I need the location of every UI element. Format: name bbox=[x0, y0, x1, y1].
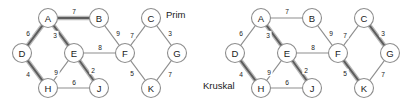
edge-weight-E-F: 8 bbox=[311, 44, 315, 51]
edge-weight-A-B: 7 bbox=[285, 8, 289, 15]
edge-weight-B-F: 9 bbox=[116, 30, 120, 37]
edge-weight-E-J: 2 bbox=[304, 67, 308, 74]
node-label-A: A bbox=[45, 13, 52, 24]
edge-weight-C-G: 3 bbox=[381, 30, 385, 37]
edge-weight-A-E: 3 bbox=[266, 32, 270, 39]
edge-weight-A-E: 3 bbox=[53, 32, 57, 39]
node-label-A: A bbox=[258, 13, 265, 24]
edge-weight-E-H: 9 bbox=[267, 69, 271, 76]
edge-weight-G-K: 7 bbox=[168, 71, 172, 78]
node-label-J: J bbox=[310, 83, 315, 94]
edge-weight-D-H: 4 bbox=[26, 71, 30, 78]
node-label-H: H bbox=[258, 83, 265, 94]
node-label-E: E bbox=[284, 48, 290, 59]
edges-group bbox=[241, 18, 385, 88]
node-label-K: K bbox=[148, 83, 155, 94]
algorithm-label-kruskal: Kruskal bbox=[203, 80, 235, 91]
node-label-J: J bbox=[97, 83, 102, 94]
edge-weight-E-F: 8 bbox=[98, 44, 102, 51]
edge-weight-H-J: 6 bbox=[285, 79, 289, 86]
edge-weight-C-F: 7 bbox=[130, 32, 134, 39]
graph-panel-kruskal: 7639734892576ABCDEFGHJKKruskal bbox=[203, 7, 400, 98]
edge-weight-A-B: 7 bbox=[72, 8, 76, 15]
node-label-E: E bbox=[71, 48, 77, 59]
graph-canvas: 7639734892576ABCDEFGHJKPrim7639734892576… bbox=[0, 0, 405, 101]
algorithm-label-prim: Prim bbox=[166, 9, 186, 20]
edge-weight-C-G: 3 bbox=[168, 30, 172, 37]
node-label-B: B bbox=[309, 13, 315, 24]
edge-weight-F-K: 5 bbox=[130, 70, 134, 77]
node-label-D: D bbox=[232, 48, 239, 59]
node-label-G: G bbox=[386, 48, 393, 59]
graph-panel-prim: 7639734892576ABCDEFGHJKPrim bbox=[13, 7, 187, 98]
panels-layer: 7639734892576ABCDEFGHJKPrim7639734892576… bbox=[13, 7, 400, 98]
node-label-G: G bbox=[173, 48, 180, 59]
node-label-D: D bbox=[19, 48, 26, 59]
edge-weight-E-H: 9 bbox=[54, 69, 58, 76]
edge-weight-E-J: 2 bbox=[91, 67, 95, 74]
node-label-K: K bbox=[361, 83, 368, 94]
node-label-C: C bbox=[361, 13, 368, 24]
edge-weight-F-K: 5 bbox=[343, 70, 347, 77]
node-label-F: F bbox=[335, 48, 341, 59]
edge-weight-B-F: 9 bbox=[329, 30, 333, 37]
edge-weight-H-J: 6 bbox=[72, 79, 76, 86]
node-label-H: H bbox=[45, 83, 52, 94]
edge-weight-D-H: 4 bbox=[239, 71, 243, 78]
mst-figure: 7639734892576ABCDEFGHJKPrim7639734892576… bbox=[0, 0, 405, 101]
node-label-C: C bbox=[148, 13, 155, 24]
edge-weight-A-D: 6 bbox=[239, 30, 243, 37]
edge-weight-C-F: 7 bbox=[343, 32, 347, 39]
edges-group bbox=[28, 18, 172, 88]
node-label-F: F bbox=[122, 48, 128, 59]
edge-weight-A-D: 6 bbox=[26, 30, 30, 37]
edge-weight-G-K: 7 bbox=[381, 71, 385, 78]
node-label-B: B bbox=[96, 13, 102, 24]
